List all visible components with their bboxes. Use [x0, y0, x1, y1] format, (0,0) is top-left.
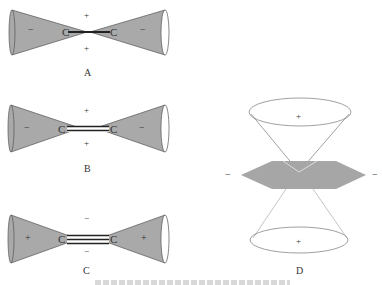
diagram-a: C C − − + + A — [9, 10, 169, 78]
sign-bottom: + — [84, 43, 89, 53]
sign-bottom-cone: + — [296, 236, 301, 246]
atom-c-right: C — [110, 123, 117, 135]
atom-c-left: C — [58, 233, 65, 245]
diagram-label: C — [83, 265, 90, 276]
diagram-d: + + − − D — [225, 98, 378, 276]
sign-bottom: − — [84, 246, 89, 256]
figure-caption-truncated — [95, 280, 290, 285]
atom-c-left: C — [62, 26, 69, 38]
diagram-label: B — [84, 163, 91, 174]
diagram-label: D — [296, 265, 303, 276]
sign-left: + — [25, 232, 31, 243]
diagram-b: C C − − + + B — [8, 105, 169, 174]
sign-top: − — [84, 213, 89, 223]
sign-right: − — [140, 24, 146, 35]
sign-right: + — [141, 232, 147, 243]
sign-plane-left: − — [225, 169, 231, 180]
atom-c-left: C — [58, 123, 65, 135]
sign-top: + — [84, 105, 89, 115]
diagram-c: C C + + − − C — [8, 213, 169, 276]
quadrupole-figure: C C − − + + A C C − − + + B C C + + — [0, 0, 382, 285]
atom-c-right: C — [110, 233, 117, 245]
nodal-plane — [241, 161, 366, 189]
sign-top-cone: + — [296, 111, 301, 121]
sign-top: + — [84, 10, 89, 20]
diagram-label: A — [84, 67, 92, 78]
atom-c-right: C — [110, 26, 117, 38]
sign-right: − — [139, 122, 145, 133]
sign-bottom: + — [84, 138, 89, 148]
sign-plane-right: − — [372, 169, 378, 180]
sign-left: − — [28, 24, 34, 35]
sign-left: − — [24, 122, 30, 133]
